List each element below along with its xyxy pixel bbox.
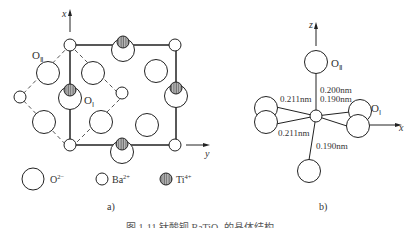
ba-ion [169,39,181,51]
figure-canvas: x y OⅡ OⅠ O2− Ba2+ Ti4+ a) z x [0,0,408,228]
o-atom-right-lower [347,115,370,138]
ba-ion [169,139,181,151]
bond-length-top-down: 0.190nm [320,94,352,104]
legend-ba-symbol [96,173,108,185]
y-axis-label-a: y [204,148,210,159]
legend [22,168,172,190]
bond-length-left-lower: 0.211nm [278,128,309,138]
legend-ba-label: Ba2+ [112,173,130,185]
y-axis-arrowhead [203,143,210,147]
ba-ion [64,39,76,51]
ti-ion [116,138,128,150]
o2-site-label-a: OⅡ [32,49,43,64]
ba-ion [64,139,76,151]
legend-ti-label: Ti4+ [176,173,192,185]
o-ion [145,60,168,83]
legend-o-symbol [22,168,44,190]
o2-atom-top [305,51,328,74]
o-ion [33,111,56,134]
bond-length-bottom: 0.190nm [316,141,348,151]
o-ion [136,114,159,137]
figure-caption: 图 1-11 钛酸钡 BaTiO₃ 的晶体结构 [126,221,274,228]
o1-label-b: OⅠ [371,102,381,117]
legend-o-label: O2− [50,173,64,185]
bond-bottom [309,116,316,160]
o-atom-left-lower [255,111,278,134]
legend-ti-symbol [160,173,172,185]
x-axis-label-b: x [398,122,404,133]
o2-label-b: OⅡ [331,57,342,72]
z-axis-arrowhead [314,22,318,29]
ti-ion [117,36,129,48]
o1-site-label-a: OⅠ [84,94,94,109]
o-ion [90,111,113,134]
panel-a-caption: a) [107,201,115,213]
bond-length-left-upper: 0.211nm [280,94,311,104]
o-ion [37,62,60,85]
ba-ion [116,87,128,99]
ti-ion [64,84,76,96]
ti-atom-center [310,110,322,122]
panel-a [14,9,210,164]
x-axis-label-a: x [61,8,67,19]
o-ion [82,62,105,85]
o-atom-bottom [298,160,321,183]
panel-b-caption: b) [319,201,327,213]
z-axis-label: z [308,19,313,30]
ba-ion [14,91,26,103]
ti-ion [170,82,182,94]
x-axis-arrowhead [68,9,72,16]
